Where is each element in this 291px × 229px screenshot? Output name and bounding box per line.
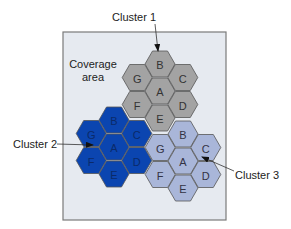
cell-label: D bbox=[202, 170, 210, 182]
cluster-diagram: Coverage area ABCDEFGABCDEFGABCDEFG Clus… bbox=[0, 0, 291, 229]
cell-label: E bbox=[156, 113, 163, 125]
cluster-1-label: Cluster 1 bbox=[112, 11, 156, 23]
coverage-area-label: Coverage bbox=[69, 58, 117, 70]
cluster-3-label: Cluster 3 bbox=[235, 169, 279, 181]
cell-label: B bbox=[179, 129, 186, 141]
cell-label: D bbox=[133, 156, 141, 168]
cell-label: G bbox=[133, 73, 142, 85]
cell-label: F bbox=[88, 156, 95, 168]
cell-label: C bbox=[179, 73, 187, 85]
cell-label: G bbox=[156, 143, 165, 155]
cell-label: A bbox=[156, 86, 164, 98]
cell-label: C bbox=[202, 143, 210, 155]
cell-label: B bbox=[110, 115, 117, 127]
cell-label: D bbox=[179, 100, 187, 112]
cell-label: E bbox=[110, 169, 117, 181]
cluster-2-label: Cluster 2 bbox=[13, 138, 57, 150]
coverage-area-label-line2: area bbox=[82, 71, 105, 83]
cell-label: G bbox=[87, 129, 96, 141]
cell-label: C bbox=[133, 129, 141, 141]
cell-label: F bbox=[157, 170, 164, 182]
cell-label: E bbox=[179, 183, 186, 195]
cell-label: F bbox=[134, 100, 141, 112]
cell-label: B bbox=[156, 59, 163, 71]
cell-label: A bbox=[179, 156, 187, 168]
cell-label: A bbox=[110, 142, 118, 154]
